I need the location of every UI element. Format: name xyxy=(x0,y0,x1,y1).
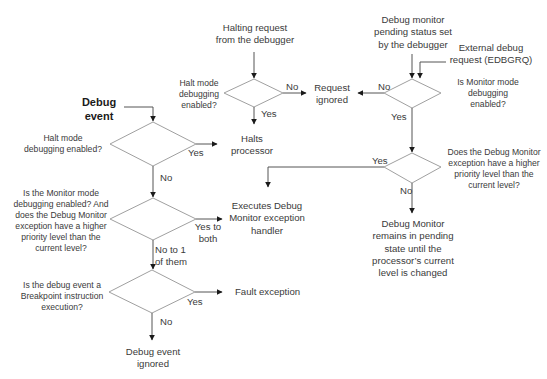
edge-no-priority-right: No xyxy=(400,185,412,196)
text-line: Is Monitor mode xyxy=(448,77,528,88)
decision-priority-right xyxy=(384,153,441,183)
text-line: state until the xyxy=(368,243,458,255)
text-line: level is changed xyxy=(368,267,458,279)
decision-halt-left-text: Halt mode debugging enabled? xyxy=(18,133,108,155)
text-line: by the debugger xyxy=(370,39,456,51)
text-line: does the Debug Monitor xyxy=(8,210,114,221)
text-line: execution? xyxy=(14,302,110,313)
text-line: enabled? xyxy=(176,100,222,111)
text-line: Yes to xyxy=(192,221,224,233)
text-line: Debug Monitor xyxy=(368,218,458,230)
text-line: of them xyxy=(155,256,197,268)
text-line: priority level than the xyxy=(8,232,114,243)
text-line: debugging enabled? And xyxy=(8,199,114,210)
text-line: Debug monitor xyxy=(370,14,456,26)
start-line-2: event xyxy=(76,109,122,123)
edge-yes-halt-top: Yes xyxy=(261,108,277,119)
text-line: Halting request xyxy=(210,22,300,34)
input-halting-request: Halting request from the debugger xyxy=(210,22,300,47)
decision-monitor-enabled-text: Is Monitor mode debugging enabled? xyxy=(448,77,528,110)
text-line: External debug xyxy=(448,42,534,54)
edge-yes-breakpoint: Yes xyxy=(187,296,203,307)
decision-halt-top-text: Halt mode debugging enabled? xyxy=(176,78,222,111)
text-line: priority level than the xyxy=(444,169,544,180)
decision-monitor-priority-left-text: Is the Monitor mode debugging enabled? A… xyxy=(8,188,114,254)
text-line: debugging xyxy=(176,89,222,100)
outcome-debug-event-ignored: Debug event ignored xyxy=(118,346,188,371)
outcome-pending-state: Debug Monitor remains in pending state u… xyxy=(368,218,458,279)
text-line: ignored xyxy=(118,358,188,370)
text-line: request (EDBGRQ) xyxy=(448,54,534,66)
text-line: exception have a higher xyxy=(444,158,544,169)
decision-halt-top xyxy=(224,79,283,107)
edge-yes-priority-right: Yes xyxy=(372,155,388,166)
text-line: Is the debug event a xyxy=(14,280,110,291)
decision-breakpoint xyxy=(109,270,195,313)
input-external-request: External debug request (EDBGRQ) xyxy=(448,42,534,67)
decision-monitor-enabled xyxy=(384,79,441,108)
outcome-halts-processor: Halts processor xyxy=(222,133,282,158)
text-line: Halt mode xyxy=(18,133,108,144)
decision-monitor-priority-left xyxy=(110,198,196,240)
text-line: Executes Debug xyxy=(224,200,310,212)
text-line: current level? xyxy=(444,180,544,191)
edge-yes-halt-left: Yes xyxy=(188,147,204,158)
text-line: Halts xyxy=(222,133,282,145)
outcome-fault-exception: Fault exception xyxy=(235,286,315,298)
decision-priority-right-text: Does the Debug Monitor exception have a … xyxy=(444,147,544,191)
text-line: Is the Monitor mode xyxy=(8,188,114,199)
start-debug-event: Debug event xyxy=(76,95,122,123)
text-line: Request xyxy=(307,82,357,94)
text-line: Halt mode xyxy=(176,78,222,89)
input-monitor-pending: Debug monitor pending status set by the … xyxy=(370,14,456,51)
text-line: debugging xyxy=(448,88,528,99)
text-line: from the debugger xyxy=(210,34,300,46)
text-line: Debug event xyxy=(118,346,188,358)
text-line: No to 1 xyxy=(155,244,197,256)
text-line: Does the Debug Monitor xyxy=(444,147,544,158)
text-line: pending status set xyxy=(370,26,456,38)
text-line: current level? xyxy=(8,243,114,254)
text-line: remains in pending xyxy=(368,230,458,242)
text-line: Monitor exception xyxy=(224,212,310,224)
edge-yes-monitor-enabled: Yes xyxy=(391,111,407,122)
edge-no-to-one: No to 1 of them xyxy=(155,244,197,269)
decision-breakpoint-text: Is the debug event a Breakpoint instruct… xyxy=(14,280,110,313)
decision-halt-left xyxy=(110,122,196,166)
text-line: debugging enabled? xyxy=(18,144,108,155)
text-line: processor xyxy=(222,145,282,157)
outcome-executes-handler: Executes Debug Monitor exception handler xyxy=(224,200,310,237)
text-line: exception have a higher xyxy=(8,221,114,232)
text-line: handler xyxy=(224,225,310,237)
edge-no-breakpoint: No xyxy=(160,316,172,327)
edge-no-halt-left: No xyxy=(160,172,172,183)
text-line: Breakpoint instruction xyxy=(14,291,110,302)
text-line: enabled? xyxy=(448,99,528,110)
text-line: ignored xyxy=(307,94,357,106)
edge-no-halt-top: No xyxy=(286,81,298,92)
text-line: processor’s current xyxy=(368,255,458,267)
start-line-1: Debug xyxy=(76,95,122,109)
edge-yes-to-both: Yes to both xyxy=(192,221,224,246)
edge-no-monitor-enabled: No xyxy=(378,81,390,92)
outcome-request-ignored: Request ignored xyxy=(307,82,357,107)
